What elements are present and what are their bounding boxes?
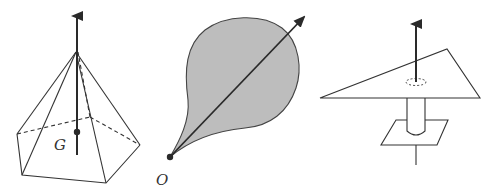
triangle-plate bbox=[320, 49, 480, 98]
cylinder-post bbox=[407, 98, 425, 135]
pyramid-panel bbox=[17, 16, 140, 183]
teardrop-panel bbox=[167, 17, 304, 160]
label-o: O bbox=[156, 171, 168, 189]
figure-canvas: G O bbox=[0, 0, 496, 192]
pivot-point-o bbox=[167, 154, 173, 160]
center-of-gravity-dot bbox=[74, 129, 80, 135]
label-g: G bbox=[54, 136, 66, 154]
triangle-post-panel bbox=[320, 24, 480, 165]
lateral-edges bbox=[17, 52, 140, 183]
base-edges bbox=[17, 134, 140, 183]
